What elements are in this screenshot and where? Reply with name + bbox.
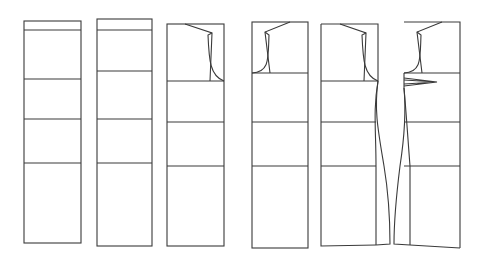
- pattern-diagram: Dress pattern development stages: [0, 0, 482, 262]
- pattern-panel-4: [252, 22, 308, 248]
- shoulder-line: [340, 24, 366, 81]
- side-seam-flare: [376, 81, 390, 245]
- pattern-panel-3: [167, 24, 224, 246]
- pattern-panel-5: [321, 24, 390, 246]
- pattern-panel-1: [24, 21, 81, 243]
- armhole-curve: [252, 32, 269, 73]
- shoulder-line: [185, 24, 212, 81]
- armhole-curve: [404, 32, 421, 73]
- bust-dart: [404, 78, 437, 86]
- pattern-panel-6: [394, 22, 460, 248]
- pattern-panel-2: [97, 19, 152, 246]
